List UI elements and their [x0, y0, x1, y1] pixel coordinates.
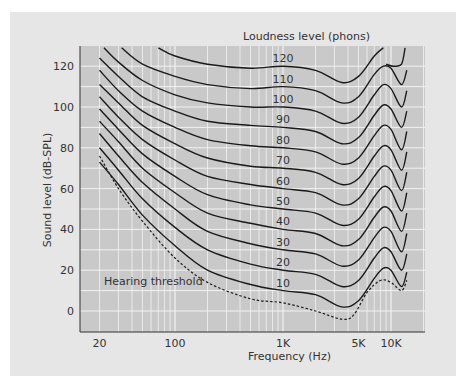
- x-tick-label: 100: [165, 337, 186, 350]
- phon-label: 120: [273, 52, 294, 65]
- phon-label: 40: [276, 215, 290, 228]
- x-tick-label: 1K: [276, 337, 291, 350]
- phon-label: 90: [276, 113, 290, 126]
- phon-label: 80: [276, 134, 290, 147]
- y-tick-label: 60: [60, 183, 74, 196]
- phon-label: 100: [273, 93, 294, 106]
- x-tick-label: 5K: [351, 337, 366, 350]
- x-axis-label: Frequency (Hz): [248, 350, 331, 363]
- y-tick-labels: 020406080100120: [53, 60, 74, 318]
- phon-label: 20: [276, 256, 290, 269]
- y-tick-label: 100: [53, 101, 74, 114]
- phon-label: 70: [276, 154, 290, 167]
- x-tick-label: 10K: [380, 337, 402, 350]
- equal-loudness-chart: 120110100908070605040302010 020406080100…: [0, 0, 468, 387]
- x-tick-label: 20: [93, 337, 107, 350]
- x-tick-labels: 201001K5K10K: [93, 337, 403, 350]
- phon-label: 10: [276, 277, 290, 290]
- chart-title: Loudness level (phons): [243, 30, 370, 43]
- y-tick-label: 20: [60, 264, 74, 277]
- phon-label: 110: [273, 73, 294, 86]
- y-axis-label: Sound level (dB-SPL): [41, 133, 54, 248]
- phon-label: 60: [276, 175, 290, 188]
- y-tick-label: 80: [60, 142, 74, 155]
- y-tick-label: 120: [53, 60, 74, 73]
- y-tick-label: 40: [60, 223, 74, 236]
- phon-label: 30: [276, 236, 290, 249]
- y-tick-label: 0: [67, 305, 74, 318]
- hearing-threshold-label: Hearing threshold: [104, 275, 203, 288]
- phon-label: 50: [276, 195, 290, 208]
